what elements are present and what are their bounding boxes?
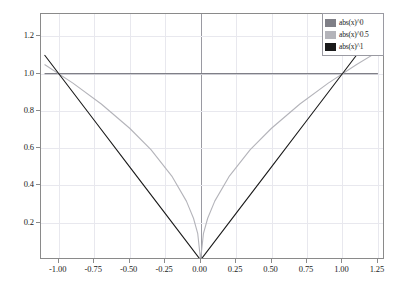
x-tick-label: 1.00: [334, 264, 348, 274]
legend-swatch-icon: [325, 43, 336, 51]
tick-mark-y: [36, 184, 40, 185]
tick-mark-x: [164, 259, 165, 263]
x-tick-label: -0.25: [156, 264, 173, 274]
chart-figure: 0.20.40.60.81.01.2 -1.00-0.75-0.50-0.250…: [0, 0, 400, 294]
x-tick-label: -0.75: [85, 264, 102, 274]
tick-mark-x: [93, 259, 94, 263]
y-tick-label: 1.0: [24, 68, 34, 78]
tick-mark-x: [306, 259, 307, 263]
tick-mark-x: [58, 259, 59, 263]
tick-mark-y: [36, 222, 40, 223]
curve-abs-x-1: [45, 27, 378, 259]
y-tick-label: 0.8: [24, 105, 34, 115]
legend-item-label: abs(x)^0: [339, 18, 363, 27]
tick-mark-x: [341, 259, 342, 263]
tick-mark-y: [36, 35, 40, 36]
legend-item-label: abs(x)^1: [339, 42, 363, 51]
tick-mark-x: [200, 259, 201, 263]
x-tick-label: 0.25: [228, 264, 242, 274]
x-tick-label: -1.00: [49, 264, 66, 274]
legend-swatch-icon: [325, 31, 336, 39]
y-tick-label: 0.2: [24, 217, 34, 227]
tick-mark-y: [36, 147, 40, 148]
y-tick-label: 0.4: [24, 179, 34, 189]
x-tick-label: 0.00: [192, 264, 206, 274]
chart-legend: abs(x)^0abs(x)^0.5abs(x)^1: [322, 13, 384, 56]
legend-item[interactable]: abs(x)^1: [325, 41, 381, 52]
x-tick-label: 0.50: [263, 264, 277, 274]
legend-item[interactable]: abs(x)^0.5: [325, 29, 381, 40]
legend-swatch-icon: [325, 19, 336, 27]
y-axis-tick-marks: [36, 13, 41, 259]
x-tick-label: 0.75: [299, 264, 313, 274]
y-axis-tick-labels: 0.20.40.60.81.01.2: [0, 0, 34, 294]
legend-item-label: abs(x)^0.5: [339, 30, 369, 39]
legend-item[interactable]: abs(x)^0: [325, 17, 381, 28]
y-tick-label: 1.2: [24, 30, 34, 40]
tick-mark-x: [129, 259, 130, 263]
tick-mark-y: [36, 73, 40, 74]
x-tick-label: -0.50: [120, 264, 137, 274]
curve-abs-x-0-5: [45, 52, 378, 259]
x-tick-label: 1.25: [370, 264, 384, 274]
tick-mark-y: [36, 110, 40, 111]
tick-mark-x: [271, 259, 272, 263]
tick-mark-x: [377, 259, 378, 263]
tick-mark-x: [235, 259, 236, 263]
y-tick-label: 0.6: [24, 142, 34, 152]
